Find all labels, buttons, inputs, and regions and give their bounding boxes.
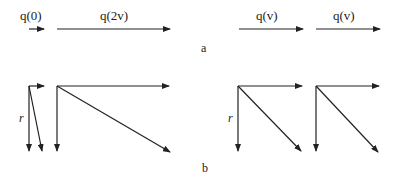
r-label: r: [228, 111, 233, 125]
panel-b-label: b: [202, 161, 208, 175]
label-qv-2: q(v): [333, 8, 355, 23]
diagonal-arrow: [29, 86, 42, 151]
label-q0: q(0): [20, 8, 42, 23]
vector-group-4: [316, 86, 379, 152]
panel-b: r r b: [19, 86, 379, 175]
diagonal-arrow: [57, 86, 170, 152]
vector-group-1: r: [19, 86, 44, 151]
diagonal-arrow: [316, 86, 378, 152]
diagonal-arrow: [238, 86, 301, 151]
panel-a-label: a: [201, 41, 207, 55]
vector-group-2: [57, 86, 170, 152]
label-q2v: q(2v): [100, 8, 128, 23]
vector-group-3: r: [228, 86, 302, 151]
vector-diagram: q(0) q(2v) q(v) q(v) a r r: [0, 0, 397, 183]
label-qv-1: q(v): [256, 8, 278, 23]
panel-a: q(0) q(2v) q(v) q(v) a: [20, 8, 380, 55]
r-label: r: [19, 111, 24, 125]
